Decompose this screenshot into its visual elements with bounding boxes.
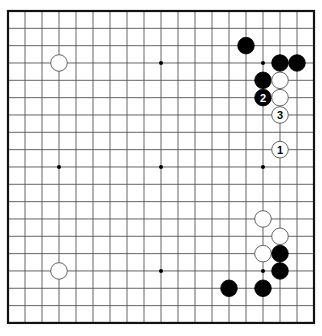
black-stone [255,280,272,297]
white-stone [272,72,289,89]
white-stone-icon [51,55,68,72]
star-point-dot [261,269,265,273]
black-stone-icon [272,245,289,262]
white-stone [272,89,289,106]
move-number-label: 1 [277,144,283,156]
white-stone-icon [255,211,272,228]
move-number-label: 2 [260,92,266,104]
black-stone [272,245,289,262]
black-stone-move-2: 2 [255,89,272,106]
white-stone-move-1: 1 [272,141,289,158]
black-stone-icon [272,263,289,280]
white-stone [272,228,289,245]
white-stone-icon [272,89,289,106]
white-stone-icon [51,263,68,280]
star-point-dot [261,61,265,65]
black-stone-icon [289,55,306,72]
black-stone-icon [255,280,272,297]
star-point-dot [159,165,163,169]
white-stone [255,211,272,228]
white-stone-icon [272,228,289,245]
black-stone-icon [272,55,289,72]
black-stone [289,55,306,72]
white-stone [51,263,68,280]
black-stone [255,72,272,89]
go-board: 231 [0,0,322,336]
white-stone-icon [272,72,289,89]
black-stone-icon [255,72,272,89]
black-stone [221,280,238,297]
white-stone-icon [255,245,272,262]
black-stone [272,55,289,72]
white-stone-move-3: 3 [272,107,289,124]
go-board-diagram: 231 [0,0,322,336]
white-stone [51,55,68,72]
move-number-label: 3 [277,109,283,121]
star-point-dot [159,269,163,273]
white-stone [255,245,272,262]
black-stone-icon [221,280,238,297]
black-stone [272,263,289,280]
star-point-dot [57,165,61,169]
star-point-dot [261,165,265,169]
star-point-dot [159,61,163,65]
black-stone-icon [238,37,255,54]
black-stone [238,37,255,54]
